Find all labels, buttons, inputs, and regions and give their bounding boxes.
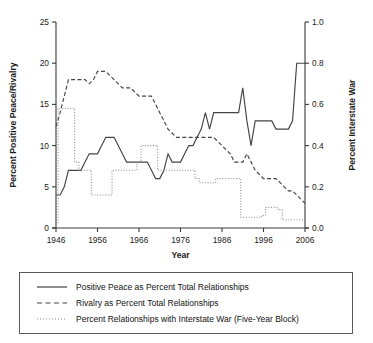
x-tick-label: 1966 xyxy=(130,235,149,245)
legend-label-interstate-war: Percent Relationships with Interstate Wa… xyxy=(70,314,299,324)
chart-figure: 05101520250.00.20.40.60.81.0194619561966… xyxy=(0,0,373,343)
y2-tick-label: 1.0 xyxy=(312,17,324,27)
legend-key-dotted-icon xyxy=(34,313,70,325)
legend-key-dashed-icon xyxy=(34,297,70,309)
series-path-2 xyxy=(56,71,305,203)
y-tick-label: 10 xyxy=(40,141,50,151)
y2-tick-label: 0.2 xyxy=(312,182,324,192)
legend-label-rivalry: Rivalry as Percent Total Relationships xyxy=(70,298,219,308)
plot-svg: 05101520250.00.20.40.60.81.0194619561966… xyxy=(0,0,373,280)
series-path-3 xyxy=(56,109,305,224)
y2-tick-label: 0.0 xyxy=(312,223,324,233)
legend-key-solid-icon xyxy=(34,281,70,293)
axes-group xyxy=(52,22,309,232)
legend-item-rivalry: Rivalry as Percent Total Relationships xyxy=(20,295,352,311)
legend-label-positive-peace: Positive Peace as Percent Total Relation… xyxy=(70,282,249,292)
chart-legend: Positive Peace as Percent Total Relation… xyxy=(19,272,353,334)
y-axis-title: Percent Positive Peace/Rivalry xyxy=(8,62,18,187)
y2-axis-title: Percent Interstate War xyxy=(347,79,357,171)
y-tick-label: 0 xyxy=(44,223,49,233)
x-axis-title: Year xyxy=(171,250,190,260)
x-tick-label: 1996 xyxy=(254,235,273,245)
y-tick-label: 20 xyxy=(40,58,50,68)
y-tick-label: 15 xyxy=(40,99,50,109)
legend-item-interstate-war: Percent Relationships with Interstate Wa… xyxy=(20,311,352,327)
y2-tick-label: 0.6 xyxy=(312,99,324,109)
x-tick-label: 2006 xyxy=(296,235,315,245)
x-tick-label: 1956 xyxy=(88,235,107,245)
y2-tick-label: 0.8 xyxy=(312,58,324,68)
series-path-1 xyxy=(56,63,305,195)
x-tick-label: 1986 xyxy=(213,235,232,245)
x-tick-label: 1946 xyxy=(47,235,66,245)
y2-tick-label: 0.4 xyxy=(312,141,324,151)
plot-area: 05101520250.00.20.40.60.81.0194619561966… xyxy=(0,0,373,280)
y-tick-label: 25 xyxy=(40,17,50,27)
y-tick-label: 5 xyxy=(44,182,49,192)
series-group xyxy=(56,63,305,224)
x-tick-label: 1976 xyxy=(171,235,190,245)
legend-item-positive-peace: Positive Peace as Percent Total Relation… xyxy=(20,279,352,295)
